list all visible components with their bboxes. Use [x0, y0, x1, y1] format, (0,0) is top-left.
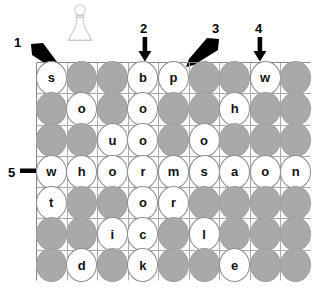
grid-cell-blank-r5c3[interactable] — [97, 186, 128, 220]
grid-cell-letter-r6c6[interactable]: l — [189, 217, 220, 251]
callout-number-3: 3 — [212, 22, 219, 35]
grid-cell-blank-r7c3[interactable] — [97, 248, 128, 282]
grid-cell-blank-r6c1[interactable] — [36, 217, 67, 251]
grid-cell-letter-r5c1[interactable]: t — [36, 186, 67, 220]
grid-cell-blank-r2c1[interactable] — [36, 92, 67, 126]
grid-cell-letter-r7c7[interactable]: e — [219, 248, 250, 282]
grid-cell-letter-r4c9[interactable]: n — [280, 155, 311, 189]
grid-cell-letter-r4c8[interactable]: o — [250, 155, 281, 189]
grid-cell-blank-r5c9[interactable] — [280, 186, 311, 220]
grid-cell-blank-r3c7[interactable] — [219, 123, 250, 157]
grid-cell-letter-r4c2[interactable]: h — [66, 155, 97, 189]
callout-number-4: 4 — [255, 22, 262, 35]
grid-cell-blank-r3c5[interactable] — [158, 123, 189, 157]
grid-cell-blank-r3c1[interactable] — [36, 123, 67, 157]
grid-cell-letter-r1c8[interactable]: w — [250, 61, 281, 95]
grid-cell-letter-r5c5[interactable]: r — [158, 186, 189, 220]
chess-pawn-icon — [60, 2, 100, 46]
grid-cell-letter-r1c4[interactable]: b — [127, 61, 158, 95]
grid-cell-blank-r6c8[interactable] — [250, 217, 281, 251]
grid-cell-blank-r6c5[interactable] — [158, 217, 189, 251]
grid-cell-letter-r4c1[interactable]: w — [36, 155, 67, 189]
grid-cell-letter-r3c4[interactable]: o — [127, 123, 158, 157]
grid-cell-letter-r4c7[interactable]: a — [219, 155, 250, 189]
grid-cell-blank-r3c9[interactable] — [280, 123, 311, 157]
grid-cell-blank-r1c6[interactable] — [189, 61, 220, 95]
grid-cell-letter-r4c6[interactable]: s — [189, 155, 220, 189]
grid-cell-blank-r7c9[interactable] — [280, 248, 311, 282]
grid-cell-blank-r2c3[interactable] — [97, 92, 128, 126]
grid-cell-letter-r3c3[interactable]: u — [97, 123, 128, 157]
grid-cell-blank-r2c5[interactable] — [158, 92, 189, 126]
callout-number-5: 5 — [8, 166, 15, 179]
grid-cell-letter-r5c4[interactable]: o — [127, 186, 158, 220]
grid-cell-blank-r2c8[interactable] — [250, 92, 281, 126]
grid-cell-blank-r3c2[interactable] — [66, 123, 97, 157]
arrow-icon-4 — [253, 37, 267, 62]
puzzle-grid: sbpwoohuoowhormsaontoricldke — [36, 62, 311, 281]
grid-cell-blank-r5c2[interactable] — [66, 186, 97, 220]
arrow-icon-2 — [138, 37, 152, 62]
grid-cell-letter-r3c6[interactable]: o — [189, 123, 220, 157]
puzzle-figure: 1 2 3 4 5 sbpwoohuoowhormsaontoricldke — [0, 0, 323, 292]
grid-cell-letter-r6c3[interactable]: i — [97, 217, 128, 251]
grid-cell-blank-r5c7[interactable] — [219, 186, 250, 220]
grid-cell-blank-r6c7[interactable] — [219, 217, 250, 251]
grid-cell-letter-r1c5[interactable]: p — [158, 61, 189, 95]
grid-cell-blank-r5c8[interactable] — [250, 186, 281, 220]
grid-cell-blank-r1c9[interactable] — [280, 61, 311, 95]
grid-cells: sbpwoohuoowhormsaontoricldke — [36, 62, 311, 281]
callout-number-2: 2 — [140, 22, 147, 35]
grid-cell-letter-r4c3[interactable]: o — [97, 155, 128, 189]
grid-cell-blank-r2c9[interactable] — [280, 92, 311, 126]
grid-cell-blank-r6c9[interactable] — [280, 217, 311, 251]
grid-cell-letter-r2c4[interactable]: o — [127, 92, 158, 126]
grid-cell-blank-r3c8[interactable] — [250, 123, 281, 157]
grid-cell-letter-r6c4[interactable]: c — [127, 217, 158, 251]
grid-cell-blank-r5c6[interactable] — [189, 186, 220, 220]
grid-cell-letter-r4c4[interactable]: r — [127, 155, 158, 189]
grid-cell-blank-r7c5[interactable] — [158, 248, 189, 282]
grid-cell-letter-r2c7[interactable]: h — [219, 92, 250, 126]
grid-cell-letter-r7c2[interactable]: d — [66, 248, 97, 282]
grid-cell-letter-r2c2[interactable]: o — [66, 92, 97, 126]
grid-cell-blank-r1c7[interactable] — [219, 61, 250, 95]
grid-cell-blank-r6c2[interactable] — [66, 217, 97, 251]
grid-cell-letter-r1c1[interactable]: s — [36, 61, 67, 95]
grid-cell-blank-r2c6[interactable] — [189, 92, 220, 126]
grid-cell-letter-r4c5[interactable]: m — [158, 155, 189, 189]
grid-cell-blank-r1c2[interactable] — [66, 61, 97, 95]
grid-cell-letter-r7c4[interactable]: k — [127, 248, 158, 282]
grid-cell-blank-r7c8[interactable] — [250, 248, 281, 282]
callout-number-1: 1 — [14, 36, 21, 49]
grid-cell-blank-r1c3[interactable] — [97, 61, 128, 95]
grid-cell-blank-r7c1[interactable] — [36, 248, 67, 282]
grid-cell-blank-r7c6[interactable] — [189, 248, 220, 282]
